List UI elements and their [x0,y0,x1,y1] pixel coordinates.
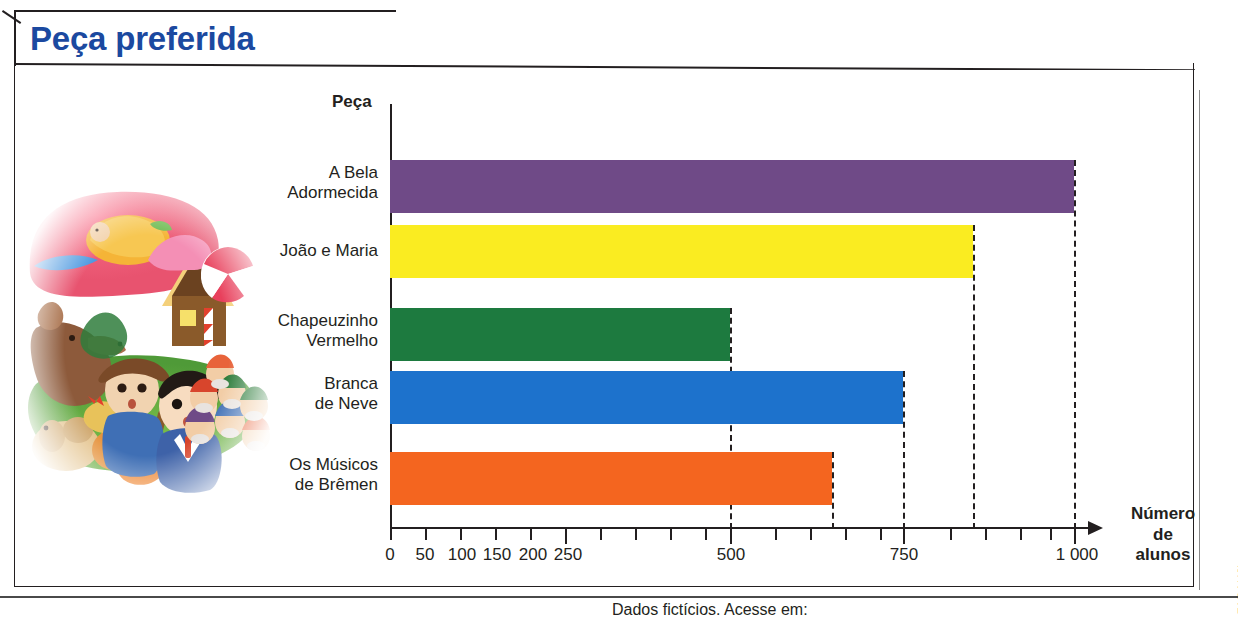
textbook-page: Peça preferida [0,0,1238,617]
fairy-tale-characters-collage-image [22,178,272,513]
page-bottom-rule [0,596,1238,598]
page-title: Peça preferida [30,20,255,58]
illustration-svg [22,178,272,513]
source-caption: Dados fictícios. Acesse em: [612,601,808,617]
credit-divider [1199,90,1200,590]
